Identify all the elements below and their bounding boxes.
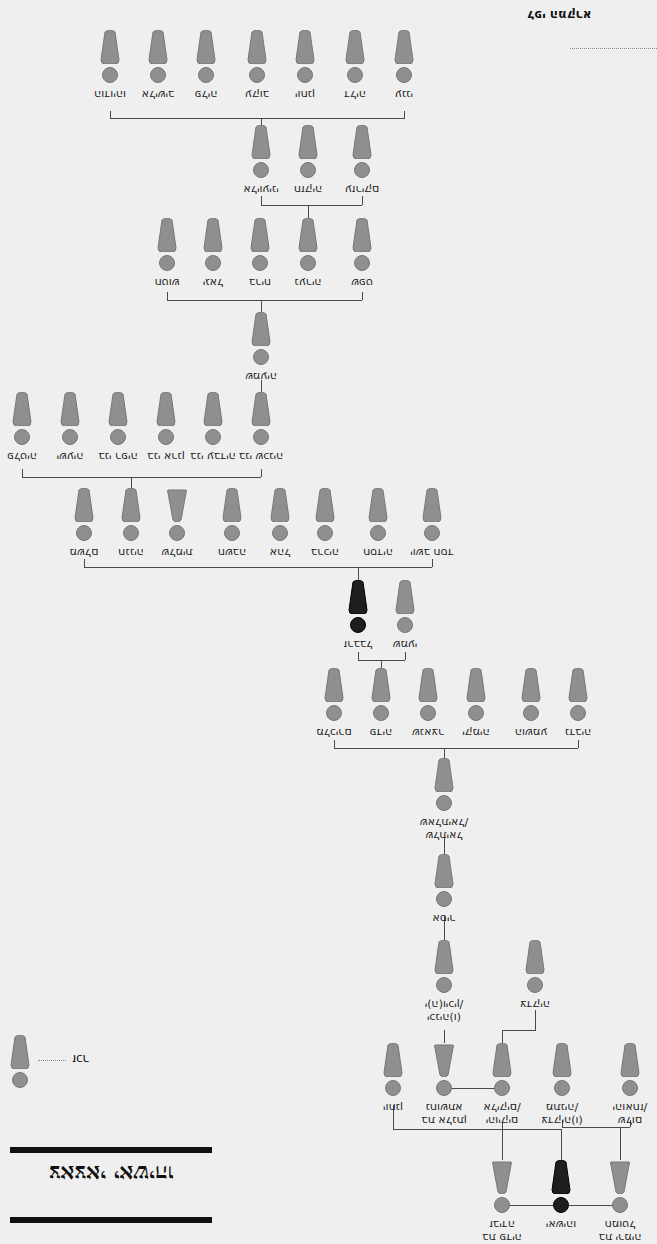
male-figure-icon bbox=[568, 668, 588, 702]
person-name: שפט bbox=[302, 276, 422, 289]
person-name: בת ירמיה חמוטל bbox=[560, 1218, 657, 1244]
head-icon bbox=[354, 162, 370, 178]
connector bbox=[561, 1129, 562, 1160]
head-icon bbox=[205, 429, 221, 445]
header-note: לפי המקרא bbox=[527, 8, 657, 22]
connector bbox=[358, 652, 359, 660]
male-figure-icon bbox=[251, 125, 271, 159]
head-icon bbox=[527, 977, 543, 993]
title-rule-top bbox=[10, 1147, 212, 1153]
connector bbox=[502, 1030, 536, 1031]
person-name: צדקיה bbox=[475, 998, 595, 1011]
male-figure-icon bbox=[422, 488, 442, 522]
male-figure-icon bbox=[74, 488, 94, 522]
connector bbox=[308, 205, 309, 218]
head-icon bbox=[436, 891, 452, 907]
connector bbox=[334, 748, 578, 749]
male-figure-icon bbox=[60, 392, 80, 426]
connector bbox=[404, 111, 405, 119]
male-figure-icon bbox=[121, 488, 141, 522]
head-icon bbox=[553, 1197, 569, 1213]
male-figure-icon bbox=[100, 30, 120, 64]
male-figure-icon bbox=[298, 125, 318, 159]
female-figure-icon bbox=[492, 1160, 512, 1194]
male-figure-icon bbox=[418, 668, 438, 702]
head-icon bbox=[169, 525, 185, 541]
connector bbox=[432, 559, 433, 567]
male-figure-icon bbox=[203, 392, 223, 426]
male-figure-icon bbox=[196, 30, 216, 64]
connector bbox=[502, 1030, 503, 1043]
female-figure-icon bbox=[610, 1160, 630, 1194]
male-figure-icon bbox=[10, 1035, 30, 1069]
connector bbox=[84, 559, 85, 567]
connector bbox=[535, 1010, 536, 1030]
legend-divider bbox=[38, 1060, 66, 1061]
head-icon bbox=[554, 1080, 570, 1096]
head-icon bbox=[76, 525, 92, 541]
connector bbox=[381, 660, 382, 668]
male-figure-icon bbox=[270, 488, 290, 522]
connector bbox=[261, 205, 362, 206]
female-figure-icon bbox=[434, 1043, 454, 1077]
connector bbox=[261, 300, 262, 312]
head-icon bbox=[622, 1080, 638, 1096]
head-icon bbox=[253, 429, 269, 445]
head-icon bbox=[14, 429, 30, 445]
head-icon bbox=[436, 795, 452, 811]
head-icon bbox=[397, 617, 413, 633]
head-icon bbox=[300, 255, 316, 271]
male-figure-icon bbox=[222, 488, 242, 522]
connector bbox=[405, 652, 406, 660]
head-icon bbox=[350, 617, 366, 633]
person-name: שמעי bbox=[345, 638, 465, 651]
title-rule-bottom bbox=[10, 1217, 212, 1223]
male-figure-icon bbox=[298, 218, 318, 252]
head-icon bbox=[205, 255, 221, 271]
connector bbox=[261, 196, 262, 205]
male-figure-icon bbox=[371, 668, 391, 702]
person-name: שלום יהואחז/ bbox=[570, 1101, 657, 1127]
male-figure-icon bbox=[552, 1043, 572, 1077]
male-figure-icon bbox=[395, 580, 415, 614]
head-icon bbox=[570, 705, 586, 721]
head-icon bbox=[436, 1080, 452, 1096]
male-figure-icon bbox=[250, 218, 270, 252]
male-figure-icon bbox=[352, 125, 372, 159]
head-icon bbox=[385, 1080, 401, 1096]
person-name: נדביה bbox=[518, 726, 638, 739]
person-name: אסיר bbox=[384, 912, 504, 925]
connector bbox=[444, 1030, 445, 1043]
male-figure-icon bbox=[12, 392, 32, 426]
male-figure-icon bbox=[108, 392, 128, 426]
male-figure-icon bbox=[203, 218, 223, 252]
head-icon bbox=[494, 1197, 510, 1213]
head-icon bbox=[249, 67, 265, 83]
head-icon bbox=[300, 162, 316, 178]
male-figure-icon bbox=[247, 30, 267, 64]
male-figure-icon bbox=[434, 758, 454, 792]
head-icon bbox=[224, 525, 240, 541]
person-name: עזריקם bbox=[302, 183, 422, 196]
head-icon bbox=[347, 67, 363, 83]
connector bbox=[167, 292, 168, 300]
head-icon bbox=[62, 429, 78, 445]
connector bbox=[620, 1127, 621, 1160]
male-figure-icon bbox=[251, 392, 271, 426]
head-icon bbox=[253, 162, 269, 178]
head-icon bbox=[158, 429, 174, 445]
male-figure-icon bbox=[551, 1160, 571, 1194]
connector bbox=[110, 118, 404, 119]
male-figure-icon bbox=[348, 580, 368, 614]
head-icon bbox=[12, 1072, 28, 1088]
head-icon bbox=[102, 67, 118, 83]
head-icon bbox=[424, 525, 440, 541]
connector bbox=[22, 477, 261, 478]
head-icon bbox=[123, 525, 139, 541]
head-icon bbox=[317, 525, 333, 541]
head-icon bbox=[468, 705, 484, 721]
connector bbox=[393, 1129, 561, 1130]
page-title: צאצאי יאשיהו bbox=[10, 1160, 212, 1187]
head-icon bbox=[523, 705, 539, 721]
head-icon bbox=[297, 67, 313, 83]
